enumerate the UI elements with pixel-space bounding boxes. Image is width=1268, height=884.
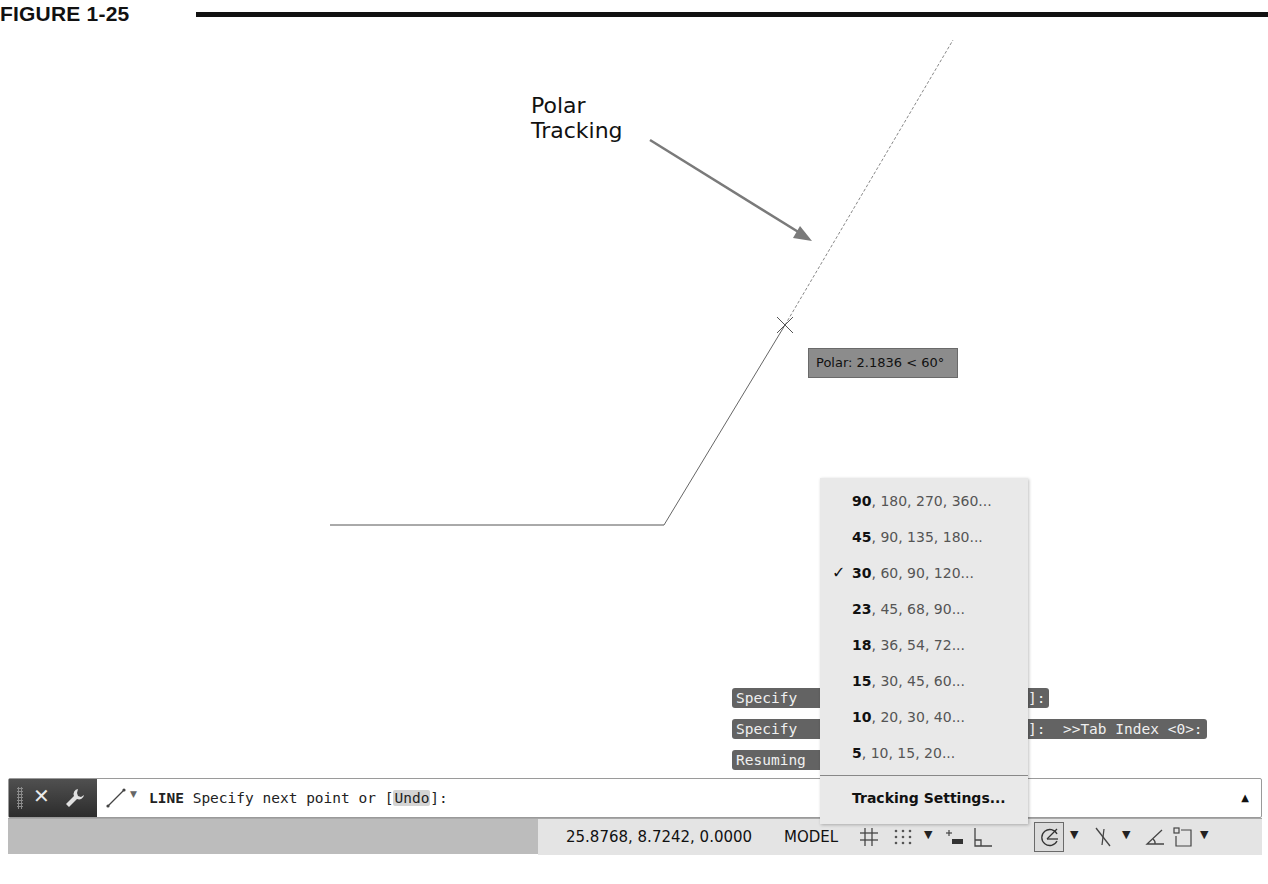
cycling-dropdown-icon[interactable]: ▼ [1200,828,1208,841]
menu-item-10[interactable]: 10, 20, 30, 40... [820,702,1028,732]
callout-line-2: Tracking [531,118,623,143]
model-space-button[interactable]: MODEL [784,819,838,855]
selection-cycling-icon[interactable] [1172,826,1194,848]
command-line[interactable]: ✕ ▼ LINE Specify next point or [Undo]: ▲ [8,778,1262,818]
osnap-dropdown-icon[interactable]: ▼ [1122,828,1130,841]
close-icon[interactable]: ✕ [33,784,50,808]
snap-dropdown-icon[interactable]: ▼ [924,828,932,841]
menu-item-30[interactable]: ✓ 30, 60, 90, 120... [820,558,1028,588]
expand-history-icon[interactable]: ▲ [1241,792,1249,803]
status-bar: 25.8768, 8.7242, 0.0000 MODEL ▼ ▼ ▼ [8,818,1262,854]
callout-line-1: Polar [531,93,623,118]
history-line-3-left: Resuming [732,750,832,770]
wrench-icon[interactable] [63,786,87,810]
command-prompt[interactable]: LINE Specify next point or [Undo]: [149,779,448,817]
dropdown-caret-icon[interactable]: ▼ [130,789,137,799]
menu-item-23[interactable]: 23, 45, 68, 90... [820,594,1028,624]
grip-icon[interactable] [17,787,23,809]
line-segment-rubberband [664,325,785,525]
ortho-icon[interactable] [972,826,994,848]
menu-item-18[interactable]: 18, 36, 54, 72... [820,630,1028,660]
menu-separator [820,775,1028,776]
polar-dropdown-icon[interactable]: ▼ [1070,828,1078,841]
tracking-point-marker [777,317,793,333]
prompt-text: Specify next point or [ [184,790,394,806]
polar-angle-menu: 90, 180, 270, 360... 45, 90, 135, 180...… [820,478,1028,824]
infer-constraints-icon[interactable] [944,826,966,848]
polar-tracking-button[interactable] [1034,822,1064,852]
coordinates-readout[interactable]: 25.8768, 8.7242, 0.0000 [566,819,752,855]
option-undo[interactable]: Undo [393,790,430,806]
polar-tooltip: Polar: 2.1836 < 60° [808,348,958,378]
callout-arrow [650,140,812,241]
snap-icon[interactable] [892,826,914,848]
polar-tracking-icon [1038,826,1060,848]
drawing-canvas[interactable] [0,0,1268,884]
command-name: LINE [149,790,184,806]
tracking-settings-item[interactable]: Tracking Settings... [852,790,1006,806]
history-line-1-left: Specify [732,688,832,708]
command-line-toolbar: ✕ [9,779,97,817]
callout-label: Polar Tracking [531,93,623,143]
menu-item-45[interactable]: 45, 90, 135, 180... [820,522,1028,552]
status-panel: 25.8768, 8.7242, 0.0000 MODEL ▼ ▼ ▼ [538,819,1262,855]
line-tool-icon[interactable] [105,787,127,809]
history-line-2-right: ]: >>Tab Index <0>: [1024,719,1207,739]
dynamic-ucs-icon[interactable] [1144,826,1166,848]
polar-tracking-path [785,40,953,325]
menu-item-5[interactable]: 5, 10, 15, 20... [820,738,1028,768]
menu-item-90[interactable]: 90, 180, 270, 360... [820,486,1028,516]
history-line-2-left: Specify [732,719,832,739]
object-snap-tracking-icon[interactable] [1092,826,1114,848]
prompt-suffix: ]: [430,790,447,806]
menu-item-15[interactable]: 15, 30, 45, 60... [820,666,1028,696]
check-icon: ✓ [832,558,845,588]
grid-icon[interactable] [858,826,880,848]
